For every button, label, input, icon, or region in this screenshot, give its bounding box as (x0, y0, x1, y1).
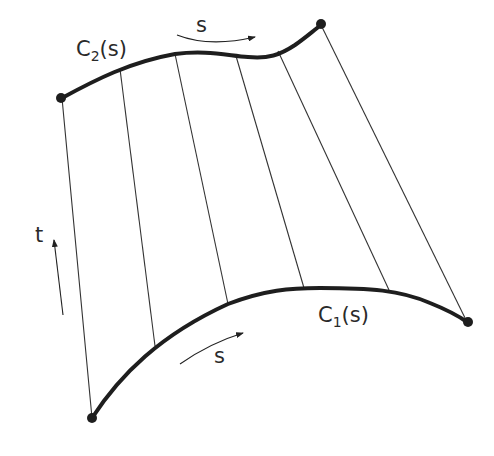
curve-c2 (62, 25, 321, 98)
endpoint-c2-start (56, 93, 66, 103)
t-arrow-icon (54, 240, 63, 315)
s-arrow-top-icon (177, 35, 255, 42)
t-label: t (35, 223, 43, 247)
s-label-top: s (196, 13, 207, 37)
s-arrow-bottom-icon (180, 333, 243, 364)
curve-c1 (92, 288, 467, 418)
ruling-lines (62, 25, 467, 418)
ruling-line-6 (321, 25, 467, 322)
endpoint-c1-end (463, 317, 473, 327)
endpoint-c1-start (87, 413, 97, 423)
curve-c2-label: C2(s) (76, 37, 127, 64)
ruling-line-1 (62, 98, 92, 418)
curve-c1-label: C1(s) (318, 303, 369, 330)
ruling-line-2 (120, 69, 155, 346)
ruling-line-4 (236, 56, 304, 288)
ruling-line-3 (175, 54, 228, 304)
s-label-bottom: s (214, 344, 225, 368)
ruled-surface-diagram: s s t C2(s) C1(s) (0, 0, 494, 456)
endpoint-c2-end (316, 19, 326, 29)
